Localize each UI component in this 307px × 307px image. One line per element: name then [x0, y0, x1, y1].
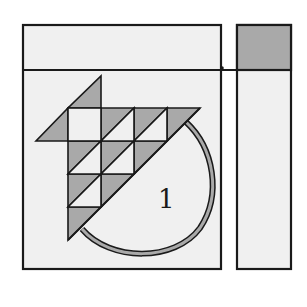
divider-junction-dot	[220, 66, 224, 70]
block-label: 1	[158, 184, 175, 214]
quilt-diagram: 1	[0, 0, 307, 307]
side-strip-shaded-top	[237, 25, 291, 70]
